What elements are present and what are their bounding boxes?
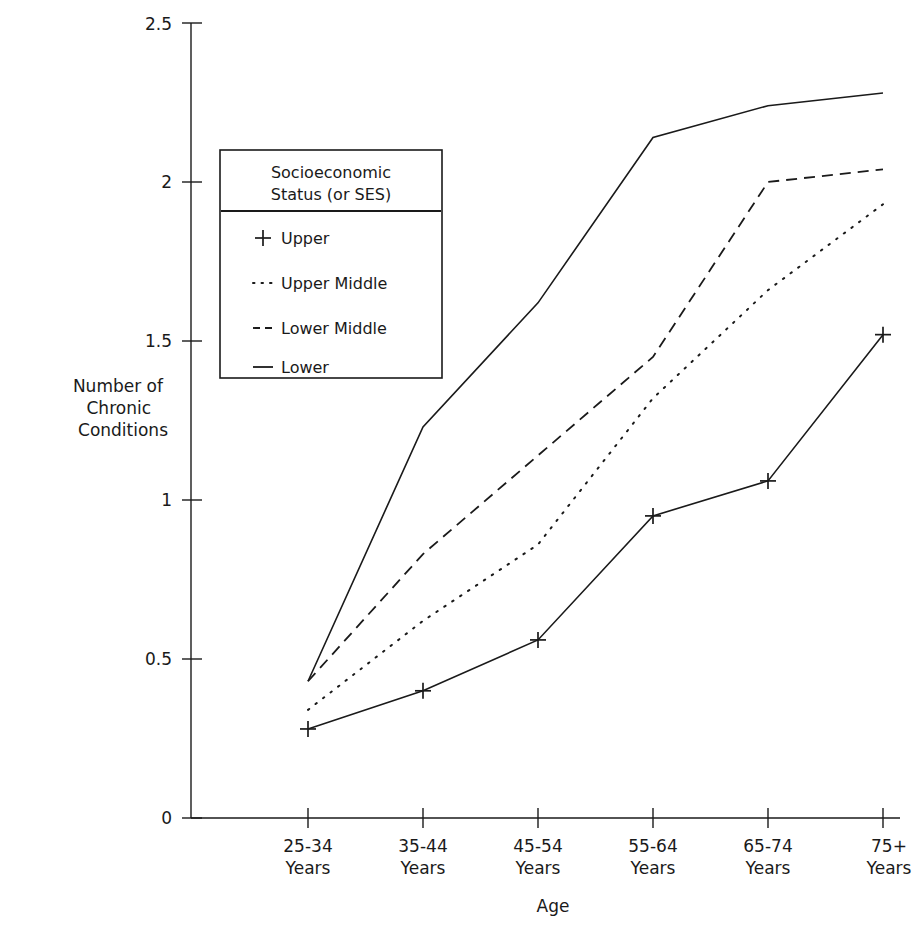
x-axis-tick-labels: 25-34 Years 35-44 Years 45-54 Years 55-6… <box>283 836 911 878</box>
x-tick-label-5-unit: Years <box>866 858 912 878</box>
legend-title-line-1: Socioeconomic <box>271 163 391 182</box>
x-tick-label-1-unit: Years <box>400 858 446 878</box>
y-axis-title-line-3: Conditions <box>78 420 168 440</box>
series-line-upper <box>308 335 883 729</box>
line-chart: 0 0.5 1 1.5 2 2.5 25-34 Years 35-44 Year… <box>0 0 914 925</box>
x-tick-label-1-range: 35-44 <box>398 836 447 856</box>
legend-label-upper-middle: Upper Middle <box>281 274 387 293</box>
x-tick-label-4-range: 65-74 <box>743 836 792 856</box>
x-tick-label-3-unit: Years <box>630 858 676 878</box>
y-tick-label-4: 2 <box>161 172 172 192</box>
x-tick-label-2-unit: Years <box>515 858 561 878</box>
y-axis-title-line-2: Chronic <box>86 398 151 418</box>
y-tick-label-0: 0 <box>161 808 172 828</box>
y-axis-title: Number of Chronic Conditions <box>73 376 168 440</box>
y-axis-ticks <box>182 23 202 818</box>
legend-label-lower-middle: Lower Middle <box>281 319 387 338</box>
x-tick-label-5-range: 75+ <box>871 836 907 856</box>
legend: Socioeconomic Status (or SES) Upper Uppe… <box>220 150 442 378</box>
y-tick-label-2: 1 <box>161 490 172 510</box>
legend-label-lower: Lower <box>281 358 329 377</box>
y-axis-title-line-1: Number of <box>73 376 164 396</box>
legend-label-upper: Upper <box>281 229 330 248</box>
y-tick-label-5: 2.5 <box>145 14 172 34</box>
y-tick-label-3: 1.5 <box>145 331 172 351</box>
chart-figure: 0 0.5 1 1.5 2 2.5 25-34 Years 35-44 Year… <box>0 0 914 925</box>
x-tick-label-3-range: 55-64 <box>628 836 677 856</box>
x-axis-title: Age <box>537 896 570 916</box>
x-tick-label-0-unit: Years <box>285 858 331 878</box>
x-tick-label-4-unit: Years <box>745 858 791 878</box>
series-markers-upper <box>300 327 891 737</box>
y-tick-label-1: 0.5 <box>145 649 172 669</box>
legend-title-line-2: Status (or SES) <box>271 185 391 204</box>
x-tick-label-2-range: 45-54 <box>513 836 562 856</box>
x-tick-label-0-range: 25-34 <box>283 836 332 856</box>
